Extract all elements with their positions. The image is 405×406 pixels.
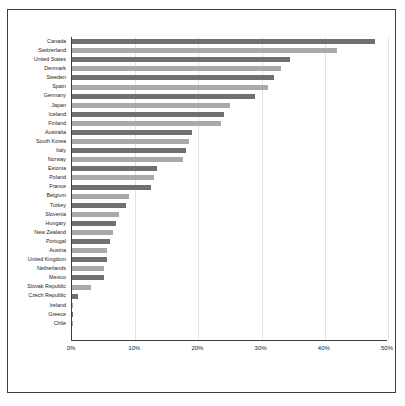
bar-row: [72, 55, 387, 64]
category-label: Austria: [8, 246, 69, 255]
bar: [72, 257, 107, 262]
category-label: Canada: [8, 37, 69, 46]
bar: [72, 121, 221, 126]
category-label-text: Denmark: [44, 66, 66, 71]
value-axis-labels: 0%10%20%30%40%50%: [71, 343, 387, 357]
category-label-text: Canada: [47, 39, 66, 44]
category-label-text: Estonia: [48, 166, 66, 171]
plot-area: [71, 37, 387, 341]
category-label: Netherlands: [8, 264, 69, 273]
bar-row: [72, 264, 387, 273]
bar-row: [72, 246, 387, 255]
category-label: Denmark: [8, 64, 69, 73]
bar-row: [72, 210, 387, 219]
category-label: South Korea: [8, 137, 69, 146]
bar: [72, 303, 73, 308]
category-label: Switzerland: [8, 46, 69, 55]
bar-row: [72, 255, 387, 264]
category-label-text: Netherlands: [37, 266, 66, 271]
bar: [72, 312, 73, 317]
chart-figure-frame: CanadaSwitzerlandUnited StatesDenmarkSwe…: [7, 9, 396, 393]
category-label-text: Greece: [48, 312, 66, 317]
category-label-text: United Kingdom: [28, 257, 66, 262]
bar-series: [72, 37, 387, 340]
x-axis-tick-label: 20%: [191, 345, 203, 351]
bar: [72, 275, 104, 280]
category-label-text: Norway: [48, 157, 66, 162]
category-label: Portugal: [8, 237, 69, 246]
bar: [72, 175, 154, 180]
bar: [72, 321, 73, 326]
category-label-text: Hungary: [46, 221, 66, 226]
category-label: Poland: [8, 173, 69, 182]
category-label: Slovak Republic: [8, 283, 69, 292]
bar: [72, 166, 157, 171]
bar-row: [72, 183, 387, 192]
bar-row: [72, 110, 387, 119]
category-label-text: Germany: [44, 93, 66, 98]
category-label: Iceland: [8, 110, 69, 119]
bar-row: [72, 155, 387, 164]
bar-row: [72, 319, 387, 328]
bar: [72, 239, 110, 244]
x-axis-tick-label: 0%: [67, 345, 76, 351]
bar-row: [72, 64, 387, 73]
category-label: Germany: [8, 92, 69, 101]
bar-row: [72, 73, 387, 82]
bar: [72, 75, 274, 80]
bar: [72, 48, 337, 53]
category-label-text: New Zealand: [34, 230, 66, 235]
category-label: Norway: [8, 155, 69, 164]
bar: [72, 230, 113, 235]
bar-row: [72, 301, 387, 310]
category-label-text: Ireland: [50, 303, 66, 308]
bar-row: [72, 173, 387, 182]
category-label-text: Sweden: [47, 75, 66, 80]
bar: [72, 157, 183, 162]
x-axis-tick-label: 50%: [381, 345, 393, 351]
bar: [72, 203, 126, 208]
category-label-text: France: [49, 184, 66, 189]
bar-row: [72, 201, 387, 210]
bar: [72, 139, 189, 144]
bar: [72, 285, 91, 290]
category-label: Czech Republic: [8, 292, 69, 301]
category-label: Chile: [8, 319, 69, 328]
category-label-text: Iceland: [49, 112, 66, 117]
bar-row: [72, 101, 387, 110]
category-label-text: South Korea: [36, 139, 66, 144]
category-label-text: Belgium: [47, 193, 66, 198]
bar-row: [72, 219, 387, 228]
category-label: Estonia: [8, 164, 69, 173]
category-label: France: [8, 183, 69, 192]
category-label-text: Austria: [49, 248, 66, 253]
bar-row: [72, 46, 387, 55]
bar: [72, 94, 255, 99]
category-label: Australia: [8, 128, 69, 137]
x-axis-tick-label: 10%: [128, 345, 140, 351]
bar-row: [72, 146, 387, 155]
x-axis-tick-label: 40%: [318, 345, 330, 351]
bar: [72, 221, 116, 226]
x-axis-tick-label: 30%: [255, 345, 267, 351]
bar: [72, 266, 104, 271]
bar-row: [72, 137, 387, 146]
category-label-text: Poland: [49, 175, 66, 180]
bar-row: [72, 92, 387, 101]
category-label-text: Turkey: [50, 203, 66, 208]
bar-row: [72, 82, 387, 91]
category-label-text: Finland: [48, 121, 66, 126]
bar-chart: CanadaSwitzerlandUnited StatesDenmarkSwe…: [8, 10, 397, 394]
category-axis-labels: CanadaSwitzerlandUnited StatesDenmarkSwe…: [8, 37, 69, 341]
category-label: Sweden: [8, 73, 69, 82]
bar-row: [72, 119, 387, 128]
bar: [72, 85, 268, 90]
category-label: Greece: [8, 310, 69, 319]
category-label: United Kingdom: [8, 255, 69, 264]
category-label: Belgium: [8, 192, 69, 201]
bar-row: [72, 164, 387, 173]
bar: [72, 66, 281, 71]
category-label: Ireland: [8, 301, 69, 310]
category-label: Mexico: [8, 273, 69, 282]
bar-row: [72, 310, 387, 319]
